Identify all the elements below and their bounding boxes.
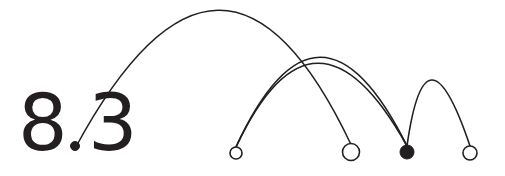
digit-eight: 8 bbox=[18, 78, 68, 168]
node-n4[interactable] bbox=[400, 145, 414, 159]
node-n1[interactable] bbox=[71, 142, 80, 151]
arc-e3 bbox=[236, 63, 407, 147]
arc-diagram-canvas: 83 bbox=[0, 0, 505, 176]
node-n5[interactable] bbox=[463, 146, 477, 160]
digit-three: 3 bbox=[88, 78, 138, 168]
label-layer: 83 bbox=[18, 78, 138, 168]
arc-e4 bbox=[407, 80, 470, 146]
node-n3[interactable] bbox=[343, 144, 360, 161]
arc-diagram-svg: 83 bbox=[0, 0, 505, 176]
node-n2[interactable] bbox=[230, 147, 242, 159]
